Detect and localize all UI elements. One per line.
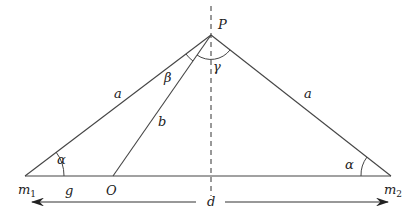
triangle-diagram: P m1 m2 O g d a a b α α β γ [0, 0, 420, 219]
label-g: g [65, 183, 73, 198]
label-m1: m1 [18, 182, 36, 199]
label-d: d [207, 194, 215, 209]
angle-arc-beta [186, 54, 193, 61]
right-side-a [211, 35, 391, 176]
label-p: P [217, 17, 227, 32]
label-alpha-right: α [345, 157, 354, 172]
label-a-right: a [304, 86, 312, 101]
segment-b [113, 35, 211, 176]
label-a-left: a [114, 86, 122, 101]
label-alpha-left: α [57, 152, 66, 167]
label-m2: m2 [384, 182, 402, 199]
label-b: b [158, 114, 166, 129]
label-o: O [106, 183, 117, 198]
angle-arc-alpha-right [361, 157, 367, 176]
label-gamma: γ [213, 59, 221, 74]
label-beta: β [163, 70, 172, 85]
left-side-a [25, 35, 211, 176]
